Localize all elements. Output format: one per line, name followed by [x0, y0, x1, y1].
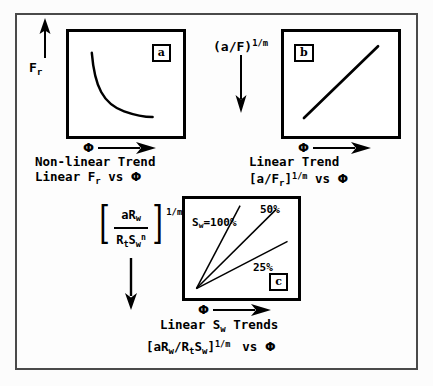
panel-b-caption-line1: Linear Trend	[249, 154, 348, 169]
panel-b-x-axis-arrow	[313, 141, 371, 155]
panel-c-label-sw100: Sw=100%	[192, 216, 237, 230]
formula-bracket-close: ]	[152, 203, 163, 243]
panel-c-caption-line2: [aRw/RtSw]1/mvs Φ	[146, 337, 278, 359]
panel-c-caption2-close: ]	[207, 339, 215, 354]
panel-a-y-axis-label: Fr	[29, 60, 42, 77]
panel-c-line-sw25	[196, 241, 287, 288]
panel-c-caption2-x: Φ	[265, 339, 276, 354]
panel-c-plot-box: c Sw=100% 50% 25%	[182, 196, 301, 301]
panel-a-curve	[69, 32, 183, 136]
panel-b-plot-box: b	[281, 29, 401, 139]
panel-c-caption2-suffix: vs	[242, 339, 265, 354]
formula-denominator-sup: n	[141, 232, 146, 242]
panel-b-caption-open: [a/F	[249, 171, 279, 186]
panel-b-caption-close: ]	[285, 171, 293, 186]
panel-b-caption: Linear Trend [a/Fr]1/m vs Φ	[249, 154, 348, 191]
saturation-formula-block: [ aRw RtSwn ] 1/m	[96, 206, 182, 252]
formula-denominator: RtSwn	[114, 227, 148, 252]
formula-numerator-base: aR	[121, 208, 135, 222]
panel-b-line	[284, 32, 398, 136]
panel-a-caption-line1: Non-linear Trend	[35, 154, 155, 169]
panel-b-x-axis-row: Φ	[298, 140, 371, 155]
panel-b-caption-suffix: vs	[307, 171, 337, 186]
panel-c-label-sw25: 25%	[253, 261, 273, 274]
panel-a-y-axis-arrow	[36, 18, 54, 58]
panel-a-y-axis-base: F	[29, 60, 37, 75]
panel-c-label-sw100-base: S	[192, 216, 199, 229]
panel-c-x-axis-row: Φ	[198, 302, 271, 317]
panel-b-y-axis-arrow	[232, 55, 250, 113]
panel-a-caption: Non-linear Trend Linear Fr vs Φ	[35, 154, 155, 189]
formula-denominator-s: S	[129, 234, 136, 248]
panel-c-caption2-mid2: S	[194, 339, 202, 354]
panel-c-label-sw50: 50%	[260, 203, 280, 216]
formula-bracket-open: [	[99, 203, 110, 243]
panel-a-x-axis-label: Φ	[83, 140, 94, 155]
panel-c-label-sw100-rest: =100%	[203, 216, 236, 229]
panel-b-y-axis-base: (a/F)	[213, 39, 252, 54]
formula-numerator-subscript: w	[136, 213, 141, 223]
panel-c-fan-lines	[185, 199, 298, 298]
panel-c-caption: Linear Sw Trends [aRw/RtSw]1/mvs Φ	[146, 317, 278, 358]
panel-a-plot-box: a	[66, 29, 186, 139]
panel-c-caption2-mid: /R	[174, 339, 189, 354]
formula-fraction: aRw RtSwn	[113, 206, 149, 252]
panel-a-caption-prefix: Linear	[35, 169, 88, 184]
panel-c-x-axis-arrow	[213, 303, 271, 317]
formula-down-arrow	[122, 258, 140, 310]
panel-c-caption-prefix: Linear	[160, 317, 213, 332]
panel-b-caption-x: Φ	[338, 171, 349, 186]
panel-a-caption-line2: Linear Fr vs Φ	[35, 169, 155, 189]
panel-b-caption-line2: [a/Fr]1/m vs Φ	[249, 169, 348, 191]
panel-b-caption-exponent: 1/m	[292, 171, 307, 181]
panel-a-caption-suffix: vs	[101, 169, 131, 184]
formula-exponent: 1/m	[166, 207, 182, 217]
panel-c-caption2-open: [aR	[146, 339, 169, 354]
figure-canvas: Fr a Φ Non-linear Trend Linear Fr vs Φ (…	[0, 0, 433, 386]
panel-c-caption-line1: Linear Sw Trends	[146, 317, 278, 337]
panel-a-caption-x: Φ	[131, 169, 142, 184]
panel-b-y-axis-label: (a/F)1/m	[213, 38, 268, 54]
panel-a-y-axis-subscript: r	[37, 66, 43, 77]
panel-c-x-axis-label: Φ	[198, 302, 209, 317]
panel-a-x-axis-row: Φ	[83, 140, 156, 155]
formula-numerator: aRw	[114, 208, 148, 227]
panel-a-x-axis-arrow	[98, 141, 156, 155]
panel-b-x-axis-label: Φ	[298, 140, 309, 155]
panel-c-caption2-exponent: 1/m	[215, 339, 230, 349]
panel-c-caption-suffix: Trends	[226, 317, 279, 332]
panel-b-y-axis-exponent: 1/m	[252, 38, 268, 48]
